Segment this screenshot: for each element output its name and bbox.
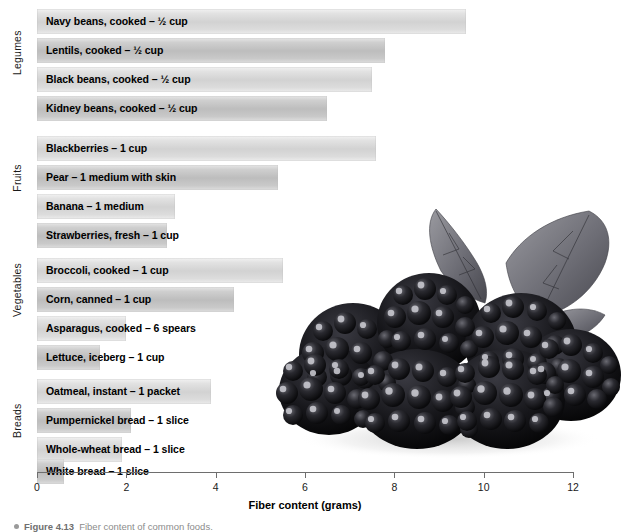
x-tick-6 — [305, 472, 306, 478]
group-label-legumes: Legumes — [0, 52, 34, 64]
bar-label-lentils: Lentils, cooked – ½ cup — [37, 38, 163, 63]
group-label-fruits: Fruits — [0, 172, 34, 184]
bar-label-pear: Pear – 1 medium with skin — [37, 165, 176, 190]
x-tick-label-6: 6 — [290, 481, 320, 493]
x-tick-label-0: 0 — [22, 481, 52, 493]
bar-label-blackberries: Blackberries – 1 cup — [37, 136, 147, 161]
bar-label-pumpernickel: Pumpernickel bread – 1 slice — [37, 408, 189, 433]
x-tick-8 — [394, 472, 395, 478]
bar-label-kidney-beans: Kidney beans, cooked – ½ cup — [37, 96, 197, 121]
bar-label-strawberries: Strawberries, fresh – 1 cup — [37, 223, 179, 248]
bar-label-lettuce: Lettuce, iceberg – 1 cup — [37, 345, 164, 370]
bar-label-black-beans: Black beans, cooked – ½ cup — [37, 67, 191, 92]
x-tick-label-12: 12 — [558, 481, 588, 493]
bar-label-oatmeal: Oatmeal, instant – 1 packet — [37, 379, 180, 404]
bar-label-corn: Corn, canned – 1 cup — [37, 287, 151, 312]
bar-label-banana: Banana – 1 medium — [37, 194, 144, 219]
x-tick-4 — [216, 472, 217, 478]
bar-label-asparagus: Asparagus, cooked – 6 spears — [37, 316, 196, 341]
x-tick-label-10: 10 — [469, 481, 499, 493]
group-label-breads: Breads — [0, 415, 34, 427]
bar-chart: Legumes Fruits Vegetables Breads Navy be… — [0, 0, 640, 532]
x-tick-12 — [573, 472, 574, 478]
bar-label-navy-beans: Navy beans, cooked – ½ cup — [37, 9, 188, 34]
fiber-content-figure: Legumes Fruits Vegetables Breads Navy be… — [0, 0, 640, 532]
bar-label-broccoli: Broccoli, cooked – 1 cup — [37, 258, 169, 283]
x-tick-0 — [37, 472, 38, 478]
x-tick-2 — [126, 472, 127, 478]
x-tick-label-4: 4 — [201, 481, 231, 493]
x-tick-label-2: 2 — [111, 481, 141, 493]
x-axis-title: Fiber content (grams) — [37, 499, 573, 511]
x-tick-10 — [484, 472, 485, 478]
x-tick-label-8: 8 — [379, 481, 409, 493]
group-label-vegetables: Vegetables — [0, 294, 34, 306]
